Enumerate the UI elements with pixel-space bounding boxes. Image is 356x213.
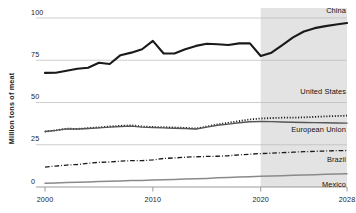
y-tick-label: 25 <box>31 134 39 143</box>
y-tick-label: 0 <box>31 177 35 186</box>
series-label-china: China <box>326 6 347 15</box>
y-tick-label: 75 <box>31 50 39 59</box>
x-tick-label: 2028 <box>339 195 356 204</box>
series-label-mexico: Mexico <box>322 180 346 189</box>
series-label-european-union: European Union <box>291 125 346 134</box>
y-tick-label: 50 <box>31 92 39 101</box>
x-tick-label: 2010 <box>145 195 162 204</box>
series-label-united-states: United States <box>300 87 346 96</box>
series-label-brazil: Brazil <box>327 155 346 164</box>
x-tick-label: 2020 <box>252 195 269 204</box>
y-tick-label: 100 <box>31 8 43 17</box>
chart-canvas: 02550751002000201020202028Million tons o… <box>0 0 356 213</box>
x-tick-label: 2000 <box>37 195 54 204</box>
meat-production-chart: 02550751002000201020202028Million tons o… <box>0 0 356 213</box>
y-axis-title: Million tons of meat <box>7 72 16 144</box>
